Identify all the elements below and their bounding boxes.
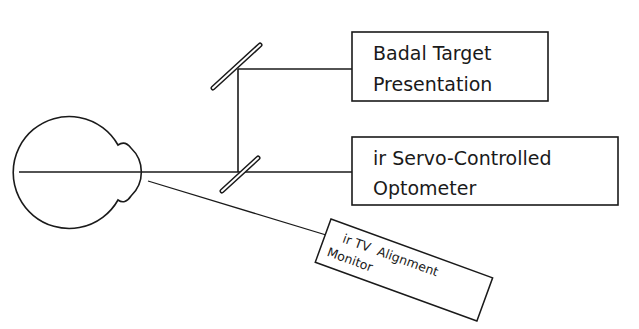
optometer-label-line2: Optometer	[373, 177, 476, 199]
optometer-box: ir Servo-Controlled Optometer	[352, 137, 618, 205]
badal-label-line2: Presentation	[373, 73, 492, 95]
optometer-label-line1: ir Servo-Controlled	[373, 147, 551, 169]
upper-mirror-icon	[213, 45, 260, 88]
optical-diagram: Badal Target Presentation ir Servo-Contr…	[0, 0, 639, 329]
tv-path-line	[148, 181, 336, 238]
lower-beamsplitter-icon	[222, 158, 258, 191]
badal-label-line1: Badal Target	[373, 42, 491, 64]
tv-alignment-monitor-box: ir TV Alignment Monitor	[315, 219, 492, 321]
badal-target-box: Badal Target Presentation	[352, 32, 548, 101]
